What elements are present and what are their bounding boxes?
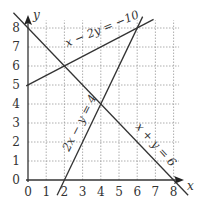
x-tick-label: 7	[152, 185, 160, 199]
coordinate-plane: 012345678012345678 x y x − 2y = −10 2x −…	[0, 0, 206, 206]
y-tick-label: 7	[12, 40, 20, 54]
x-axis-label: x	[187, 179, 194, 193]
x-tick-label: 0	[24, 185, 32, 199]
y-axis-label: y	[32, 8, 40, 22]
x-tick-label: 1	[42, 185, 50, 199]
y-tick-label: 1	[12, 154, 20, 168]
y-tick-label: 6	[12, 59, 20, 73]
x-tick-label: 5	[115, 185, 123, 199]
x-tick-label: 4	[97, 185, 105, 199]
y-tick-label: 2	[12, 135, 20, 149]
x-tick-label: 6	[133, 185, 141, 199]
y-tick-label: 0	[12, 173, 20, 187]
y-tick-label: 4	[12, 97, 20, 111]
x-tick-label: 2	[61, 185, 69, 199]
y-tick-label: 8	[12, 21, 20, 35]
graph-figure: 012345678012345678 x y x − 2y = −10 2x −…	[0, 0, 206, 206]
y-tick-label: 5	[12, 78, 20, 92]
x-tick-label: 3	[79, 185, 87, 199]
y-tick-label: 3	[12, 116, 20, 130]
x-tick-label: 8	[170, 185, 178, 199]
grid	[28, 20, 179, 180]
